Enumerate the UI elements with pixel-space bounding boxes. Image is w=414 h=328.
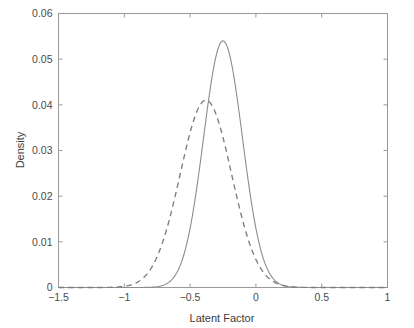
x-tick-label-3: 0 [253, 291, 259, 303]
x-tick-label-1: −1 [118, 291, 130, 303]
y-tick-label-3: 0.03 [32, 144, 53, 156]
x-tick-label-2: −0.5 [180, 291, 201, 303]
chart-canvas: −1.5−1−0.500.51 00.010.020.030.040.050.0… [0, 0, 414, 328]
y-tick-label-0: 0 [47, 281, 53, 293]
x-tick-label-4: 0.5 [314, 291, 329, 303]
y-tick-label-6: 0.06 [32, 7, 53, 19]
y-tick-label-5: 0.05 [32, 53, 53, 65]
y-tick-label-1: 0.01 [32, 236, 53, 248]
x-tick-label-5: 1 [385, 291, 391, 303]
y-axis-title: Density [14, 131, 26, 168]
x-axis-title: Latent Factor [190, 312, 255, 324]
y-tick-label-2: 0.02 [32, 190, 53, 202]
density-plot-figure: −1.5−1−0.500.51 00.010.020.030.040.050.0… [0, 0, 414, 328]
y-tick-label-4: 0.04 [32, 99, 53, 111]
chart-background [0, 0, 414, 328]
